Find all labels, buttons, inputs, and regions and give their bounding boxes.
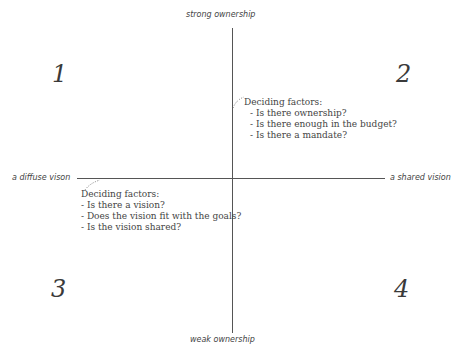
annotation-item: Is there a vision? bbox=[81, 200, 241, 211]
axis-label-bottom: weak ownership bbox=[190, 335, 255, 344]
annotation-list: Is there a vision? Does the vision fit w… bbox=[81, 200, 241, 233]
quadrant-number-3: 3 bbox=[51, 277, 66, 301]
quadrant-number-1: 1 bbox=[52, 62, 67, 86]
annotation-vision: Deciding factors: Is there a vision? Doe… bbox=[81, 189, 241, 233]
annotation-item: Is there enough in the budget? bbox=[250, 119, 397, 130]
axis-label-top: strong ownership bbox=[186, 10, 255, 19]
annotation-item: Does the vision fit with the goals? bbox=[81, 211, 241, 222]
vertical-axis bbox=[232, 28, 233, 333]
axis-label-right: a shared vision bbox=[390, 173, 451, 182]
quadrant-number-2: 2 bbox=[396, 62, 411, 86]
annotation-title: Deciding factors: bbox=[244, 97, 397, 108]
annotation-ownership: Deciding factors: Is there ownership? Is… bbox=[244, 97, 397, 141]
horizontal-axis bbox=[77, 178, 385, 179]
annotation-list: Is there ownership? Is there enough in t… bbox=[244, 108, 397, 141]
quadrant-number-4: 4 bbox=[394, 277, 409, 301]
annotation-item: Is there a mandate? bbox=[250, 130, 397, 141]
annotation-item: Is there ownership? bbox=[250, 108, 397, 119]
axis-label-left: a diffuse vison bbox=[12, 173, 70, 182]
annotation-item: Is the vision shared? bbox=[81, 222, 241, 233]
annotation-title: Deciding factors: bbox=[81, 189, 241, 200]
